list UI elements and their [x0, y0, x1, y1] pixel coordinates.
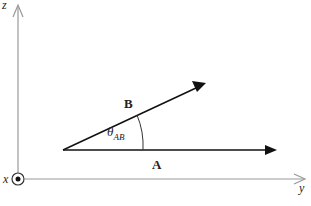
vector-a-arrowhead — [265, 145, 277, 155]
angle-subscript: AB — [113, 132, 124, 142]
x-axis-label: x — [3, 172, 8, 187]
vector-b-arrowhead — [192, 81, 206, 92]
y-axis-label: y — [299, 181, 304, 196]
vector-a-label: A — [152, 157, 161, 173]
diagram-canvas — [0, 0, 311, 206]
angle-label: θAB — [107, 124, 124, 142]
vector-b-label: B — [124, 96, 133, 112]
z-axis-label: z — [2, 0, 7, 13]
angle-arc — [137, 115, 143, 150]
x-axis-dot — [16, 177, 21, 182]
